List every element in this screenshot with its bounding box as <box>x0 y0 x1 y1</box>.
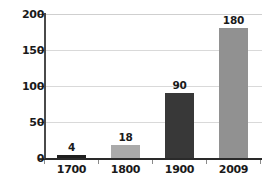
y-axis-label-150: 150 <box>4 44 44 57</box>
bar-value-1900: 90 <box>165 79 194 91</box>
bar-value-2009: 180 <box>219 14 248 26</box>
x-tick-0 <box>44 160 45 164</box>
x-axis-line <box>38 158 262 160</box>
x-axis-label-1900: 1900 <box>159 163 200 176</box>
y-axis-label-50: 50 <box>4 116 44 129</box>
bar-1700[interactable] <box>57 155 86 158</box>
x-tick-3 <box>206 160 207 164</box>
y-axis-label-0: 0 <box>4 152 44 165</box>
bar-1800[interactable] <box>111 145 140 158</box>
y-axis-label-100: 100 <box>4 80 44 93</box>
y-axis-label-200: 200 <box>4 8 44 21</box>
x-tick-4 <box>260 160 261 164</box>
bar-value-1800: 18 <box>111 131 140 143</box>
bar-value-1700: 4 <box>57 141 86 153</box>
x-axis-label-1700: 1700 <box>51 163 92 176</box>
x-axis-label-1800: 1800 <box>105 163 146 176</box>
bar-1900[interactable] <box>165 93 194 158</box>
x-tick-1 <box>98 160 99 164</box>
bar-chart: 200 150 100 50 0 4 18 90 180 1700 1800 1… <box>0 0 268 187</box>
x-tick-2 <box>152 160 153 164</box>
bar-2009[interactable] <box>219 28 248 158</box>
x-axis-label-2009: 2009 <box>213 163 254 176</box>
